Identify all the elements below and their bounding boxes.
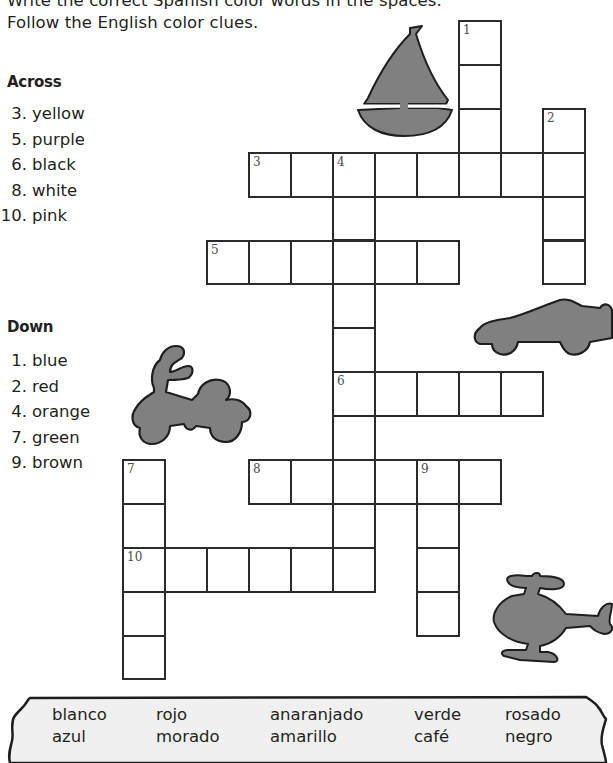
crossword-cell[interactable]: 1 <box>458 20 502 66</box>
clue-number: 9 <box>421 462 429 476</box>
crossword-cell[interactable] <box>248 240 292 286</box>
crossword-cell[interactable] <box>458 152 502 198</box>
crossword-cell[interactable]: 8 <box>248 459 292 505</box>
crossword-cell[interactable] <box>164 547 208 593</box>
clue-number: 5 <box>211 243 219 257</box>
crossword-cell[interactable] <box>458 459 502 505</box>
crossword-cell[interactable] <box>416 503 460 549</box>
word-bank-word: rojo <box>156 705 187 724</box>
crossword-cell[interactable] <box>500 371 544 417</box>
word-bank-word: verde <box>414 705 461 724</box>
crossword-cell[interactable] <box>122 635 166 681</box>
crossword-cell[interactable] <box>332 327 376 373</box>
crossword-cell[interactable] <box>332 283 376 329</box>
crossword-cell[interactable] <box>416 547 460 593</box>
clue-number: 3 <box>253 155 261 169</box>
crossword-cell[interactable] <box>290 240 334 286</box>
crossword-cell[interactable]: 9 <box>416 459 460 505</box>
crossword-cell[interactable] <box>374 371 418 417</box>
crossword-cell[interactable] <box>332 503 376 549</box>
crossword-cell[interactable] <box>332 547 376 593</box>
crossword-cell[interactable] <box>374 240 418 286</box>
crossword-cell[interactable]: 10 <box>122 547 166 593</box>
clue-number: 1 <box>463 23 471 37</box>
crossword-cell[interactable] <box>416 591 460 637</box>
crossword-cell[interactable] <box>416 152 460 198</box>
crossword-cell[interactable] <box>416 240 460 286</box>
crossword-cell[interactable] <box>290 152 334 198</box>
crossword-cell[interactable]: 3 <box>248 152 292 198</box>
word-bank-word: anaranjado <box>270 705 363 724</box>
clue-number: 7 <box>127 462 135 476</box>
crossword-cell[interactable]: 5 <box>206 240 250 286</box>
clue-number: 10 <box>127 550 142 564</box>
word-bank-word: morado <box>156 727 220 746</box>
crossword-cell[interactable]: 2 <box>542 108 586 154</box>
crossword-cell[interactable] <box>458 371 502 417</box>
crossword-cell[interactable]: 4 <box>332 152 376 198</box>
word-bank-word: negro <box>505 727 553 746</box>
crossword-cell[interactable]: 7 <box>122 459 166 505</box>
crossword-cell[interactable] <box>416 371 460 417</box>
crossword-cell[interactable] <box>542 152 586 198</box>
crossword-cell[interactable] <box>374 459 418 505</box>
crossword-cell[interactable] <box>332 196 376 242</box>
clue-number: 4 <box>337 155 345 169</box>
word-bank-word: azul <box>52 727 86 746</box>
word-bank: blanco rojo anaranjado verde rosado azul… <box>6 693 612 763</box>
clue-number: 8 <box>253 462 261 476</box>
crossword-cell[interactable] <box>290 459 334 505</box>
crossword-cell[interactable] <box>458 108 502 154</box>
word-bank-word: blanco <box>52 705 107 724</box>
crossword-cell[interactable] <box>206 547 250 593</box>
crossword-cell[interactable] <box>332 415 376 461</box>
crossword-cell[interactable] <box>248 547 292 593</box>
word-bank-word: rosado <box>505 705 561 724</box>
clue-number: 2 <box>547 111 555 125</box>
clue-number: 6 <box>337 374 345 388</box>
crossword-cell[interactable] <box>374 152 418 198</box>
crossword-cell[interactable] <box>122 591 166 637</box>
crossword-cell[interactable] <box>332 459 376 505</box>
word-bank-word: café <box>414 727 449 746</box>
crossword-cell[interactable] <box>332 240 376 286</box>
word-bank-word: amarillo <box>270 727 337 746</box>
crossword-cell[interactable] <box>122 503 166 549</box>
crossword-cell[interactable] <box>542 196 586 242</box>
crossword-cell[interactable] <box>290 547 334 593</box>
crossword-cell[interactable] <box>500 152 544 198</box>
crossword-cell[interactable] <box>542 240 586 286</box>
crossword-cell[interactable]: 6 <box>332 371 376 417</box>
crossword-cell[interactable] <box>458 64 502 110</box>
